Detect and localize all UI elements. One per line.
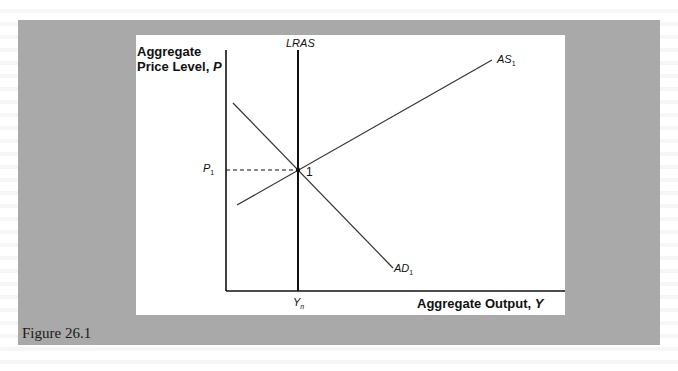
chart-plot: [0, 0, 678, 371]
figure-caption: Figure 26.1: [22, 325, 91, 342]
x-axis-variable: Y: [535, 296, 544, 311]
y-axis-label: Aggregate Price Level, P: [137, 44, 222, 74]
yn-tick-label: Yn: [293, 296, 304, 310]
yn-label-sub: n: [300, 303, 304, 310]
ad1-label-text: AD: [394, 262, 409, 274]
as1-curve: [237, 60, 492, 205]
ad1-label: AD1: [394, 262, 413, 276]
p1-tick-label: P1: [203, 162, 214, 176]
x-axis-label-text: Aggregate Output,: [417, 296, 535, 311]
as1-label: AS1: [497, 53, 516, 67]
y-axis-label-line2: Price Level,: [137, 59, 213, 74]
y-axis-label-line1: Aggregate: [137, 44, 222, 59]
as1-label-text: AS: [497, 53, 512, 65]
y-axis-variable: P: [213, 59, 222, 74]
as1-label-sub: 1: [512, 60, 516, 67]
equilibrium-point: [296, 168, 300, 172]
lras-label: LRAS: [286, 37, 315, 49]
equilibrium-label: 1: [306, 165, 313, 179]
ad1-curve: [233, 103, 393, 268]
x-axis-label: Aggregate Output, Y: [417, 296, 543, 311]
p1-label-sub: 1: [210, 169, 214, 176]
ad1-label-sub: 1: [409, 269, 413, 276]
